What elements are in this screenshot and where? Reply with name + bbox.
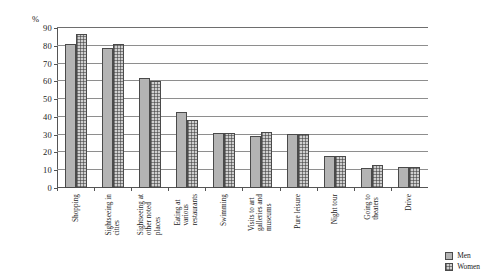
bar-group bbox=[131, 28, 168, 188]
x-tick-mark bbox=[242, 188, 243, 191]
x-axis-label: Sightseeing atother notedplaces bbox=[137, 194, 162, 235]
bar-women bbox=[224, 133, 235, 188]
x-axis-label: Eating atvariousrestaurants bbox=[174, 194, 199, 226]
bar-women bbox=[76, 34, 87, 188]
legend-swatch-icon bbox=[445, 252, 453, 260]
chart-legend: MenWomen bbox=[445, 251, 480, 273]
x-tick-mark bbox=[205, 188, 206, 191]
y-tick-label-10: 10 bbox=[30, 166, 52, 175]
bar-men bbox=[176, 112, 187, 188]
y-tick-label-0: 0 bbox=[30, 184, 52, 193]
x-label-cell: Sightseeing incities bbox=[94, 192, 131, 277]
bar-group bbox=[205, 28, 242, 188]
bar-men bbox=[287, 134, 298, 188]
x-axis-labels: ShoppingSightseeing incitiesSightseeing … bbox=[57, 192, 428, 277]
bar-women bbox=[335, 156, 346, 188]
y-axis-unit-label: % bbox=[32, 14, 39, 24]
bar-men bbox=[102, 48, 113, 188]
bar-women bbox=[187, 120, 198, 188]
x-label-cell: Sightseeing atother notedplaces bbox=[131, 192, 168, 277]
bar-men bbox=[213, 133, 224, 188]
bar-group bbox=[354, 28, 391, 188]
x-tick-mark bbox=[94, 188, 95, 191]
x-axis-label: Visits to artgalleries andmuseums bbox=[248, 194, 273, 231]
bar-women bbox=[113, 44, 124, 188]
x-axis-label: Night tour bbox=[331, 194, 339, 224]
bar-women bbox=[261, 132, 272, 188]
x-label-cell: Pure leisure bbox=[280, 192, 317, 277]
bar-men bbox=[139, 78, 150, 188]
bar-women bbox=[372, 165, 383, 188]
bar-women bbox=[150, 81, 161, 188]
y-tick-label-80: 80 bbox=[30, 42, 52, 51]
x-label-cell: Drive bbox=[391, 192, 428, 277]
bar-groups bbox=[57, 28, 428, 188]
bar-men bbox=[65, 44, 76, 188]
x-axis-label: Swimming bbox=[220, 194, 228, 226]
y-tick-label-40: 40 bbox=[30, 113, 52, 122]
x-axis-label: Shopping bbox=[71, 194, 79, 222]
x-label-cell: Eating atvariousrestaurants bbox=[168, 192, 205, 277]
x-axis-label-line: cities bbox=[113, 194, 121, 236]
x-tick-mark bbox=[317, 188, 318, 191]
x-axis-label-line: museums bbox=[265, 194, 273, 231]
x-tick-mark bbox=[280, 188, 281, 191]
legend-swatch-icon bbox=[445, 263, 453, 271]
x-label-cell: Visits to artgalleries andmuseums bbox=[242, 192, 279, 277]
x-axis-label: Sightseeing incities bbox=[104, 194, 121, 236]
bar-group bbox=[57, 28, 94, 188]
bar-chart: % 0102030405060708090 ShoppingSightseein… bbox=[0, 0, 486, 279]
bar-group bbox=[391, 28, 428, 188]
bar-women bbox=[409, 167, 420, 188]
x-axis-label-line: Night tour bbox=[331, 194, 339, 224]
y-tick-label-70: 70 bbox=[30, 59, 52, 68]
bar-men bbox=[324, 156, 335, 188]
bar-men bbox=[361, 168, 372, 188]
bar-group bbox=[94, 28, 131, 188]
legend-item-men[interactable]: Men bbox=[445, 251, 480, 261]
y-tick-label-20: 20 bbox=[30, 148, 52, 157]
y-tick-label-30: 30 bbox=[30, 130, 52, 139]
x-axis-label-line: places bbox=[154, 194, 162, 235]
x-axis-label: Drive bbox=[405, 194, 413, 211]
x-axis-label-line: theaters bbox=[372, 194, 380, 220]
x-label-cell: Shopping bbox=[57, 192, 94, 277]
legend-label: Men bbox=[457, 251, 471, 261]
x-tick-mark bbox=[354, 188, 355, 191]
bar-group bbox=[280, 28, 317, 188]
x-axis-label-line: Pure leisure bbox=[294, 194, 302, 229]
plot-area: 0102030405060708090 bbox=[57, 28, 428, 188]
bar-group bbox=[168, 28, 205, 188]
x-axis-label-line: Drive bbox=[405, 194, 413, 211]
bar-group bbox=[242, 28, 279, 188]
bar-group bbox=[317, 28, 354, 188]
legend-label: Women bbox=[457, 262, 480, 272]
x-label-cell: Going totheaters bbox=[354, 192, 391, 277]
bar-women bbox=[298, 134, 309, 188]
x-axis-label: Going totheaters bbox=[364, 194, 381, 220]
legend-item-women[interactable]: Women bbox=[445, 262, 480, 272]
x-axis-label: Pure leisure bbox=[294, 194, 302, 229]
x-tick-mark bbox=[391, 188, 392, 191]
x-axis-label-line: restaurants bbox=[191, 194, 199, 226]
x-axis-label-line: Shopping bbox=[71, 194, 79, 222]
bar-men bbox=[250, 136, 261, 188]
x-label-cell: Swimming bbox=[205, 192, 242, 277]
x-tick-mark bbox=[168, 188, 169, 191]
x-label-cell: Night tour bbox=[317, 192, 354, 277]
x-axis-label-line: Swimming bbox=[220, 194, 228, 226]
bar-men bbox=[398, 167, 409, 188]
x-tick-mark bbox=[57, 188, 58, 191]
y-tick-label-90: 90 bbox=[30, 24, 52, 33]
y-tick-label-60: 60 bbox=[30, 77, 52, 86]
x-tick-mark bbox=[131, 188, 132, 191]
y-tick-label-50: 50 bbox=[30, 95, 52, 104]
